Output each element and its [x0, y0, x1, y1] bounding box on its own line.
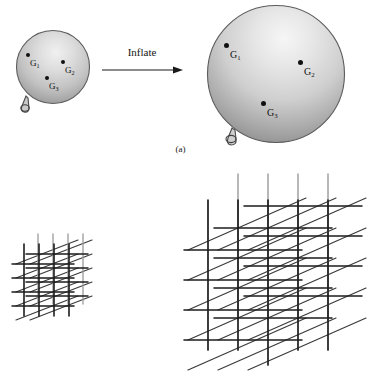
marker-label-g3: G3 — [267, 108, 278, 119]
marker-label-g1: G1 — [30, 59, 40, 69]
marker-label-g2: G2 — [304, 67, 315, 78]
inflate-transition: Inflate — [100, 46, 184, 76]
panel-a-balloons: G1 G2 G3 Inflate — [0, 0, 361, 168]
panel-a-caption: (a) — [0, 144, 361, 154]
marker-dot-g3 — [45, 76, 49, 80]
lattice-large — [178, 170, 371, 375]
balloon-large-shape — [198, 4, 358, 146]
marker-dot-g1 — [26, 53, 30, 57]
marker-dot-g2 — [61, 60, 65, 64]
balloon-small: G1 G2 G3 — [14, 28, 92, 112]
marker-label-g1: G1 — [230, 50, 241, 61]
panel-b-lattices — [0, 168, 361, 378]
arrow-right-icon — [100, 46, 184, 76]
balloon-large: G1 G2 G3 — [198, 4, 358, 146]
balloon-small-shape — [14, 28, 92, 112]
marker-dot-g2 — [298, 60, 303, 65]
marker-label-g2: G2 — [65, 66, 75, 76]
marker-label-g3: G3 — [49, 82, 59, 92]
marker-dot-g3 — [261, 101, 266, 106]
balloon-large-knot — [226, 128, 236, 145]
balloon-small-knot — [21, 96, 29, 112]
marker-dot-g1 — [224, 43, 229, 48]
lattice-small — [4, 220, 114, 330]
